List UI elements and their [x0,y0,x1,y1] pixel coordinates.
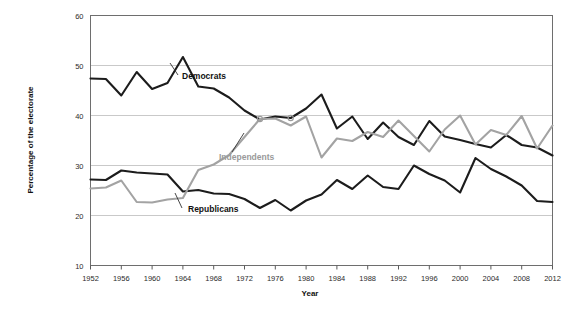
x-tick-label-1976: 1976 [267,274,284,283]
x-tick-label-1988: 1988 [359,274,376,283]
x-tick-label-2004: 2004 [483,274,500,283]
chart-container: 102030405060 195219561960196419681972197… [0,0,572,314]
x-tick-label-1956: 1956 [113,274,130,283]
chart-background [0,0,572,314]
y-tick-label-50: 50 [75,62,83,71]
x-tick-label-2012: 2012 [544,274,561,283]
republicans-series-label: Republicans [188,204,239,214]
x-tick-label-1996: 1996 [421,274,438,283]
x-tick-label-1992: 1992 [390,274,407,283]
x-tick-label-1972: 1972 [236,274,253,283]
y-tick-label-10: 10 [75,262,83,271]
party-identification-line-chart: 102030405060 195219561960196419681972197… [0,0,572,314]
y-tick-label-60: 60 [75,12,83,21]
y-tick-label-30: 30 [75,162,83,171]
x-tick-label-1960: 1960 [144,274,161,283]
x-axis-title: Year [302,289,319,298]
y-tick-label-40: 40 [75,112,83,121]
x-tick-label-1964: 1964 [175,274,192,283]
y-tick-label-20: 20 [75,212,83,221]
x-tick-label-2000: 2000 [452,274,469,283]
democrats-series-label: Democrats [182,71,226,81]
x-tick-label-1968: 1968 [205,274,222,283]
x-tick-label-1952: 1952 [82,274,99,283]
y-axis-title: Percentage of the electorate [26,86,35,194]
x-tick-label-1984: 1984 [329,274,346,283]
independents-series-label: Independents [219,152,275,162]
x-tick-label-2008: 2008 [513,274,530,283]
x-tick-label-1980: 1980 [298,274,315,283]
